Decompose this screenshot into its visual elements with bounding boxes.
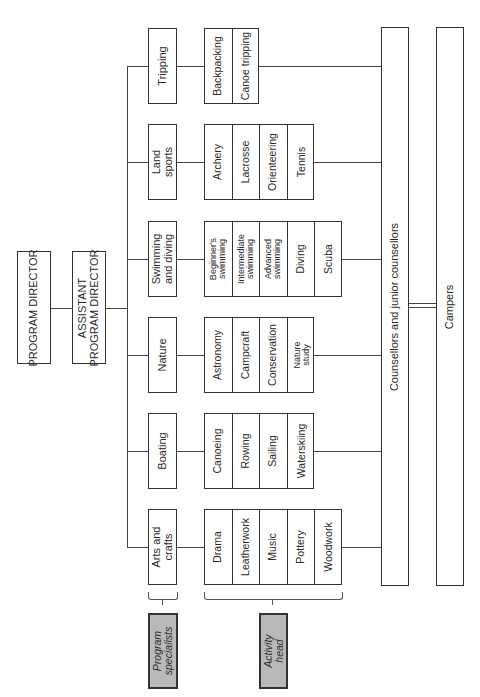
activity-label: Canoeing bbox=[213, 429, 224, 474]
activity-label: Lacrosse bbox=[240, 141, 251, 184]
program-label: Arts and crafts bbox=[151, 527, 174, 568]
activity-label: Drama bbox=[213, 531, 224, 563]
program-label: Nature bbox=[157, 338, 169, 371]
activity-cell: Rowing bbox=[233, 414, 261, 488]
program-label: Swimming and diving bbox=[151, 234, 174, 285]
activity-cell: Woodwork bbox=[315, 510, 343, 584]
activity-cell: Advanced swimming bbox=[260, 222, 288, 296]
campers-box: Campers bbox=[436, 27, 464, 586]
activities-to-counsellors bbox=[259, 66, 381, 67]
activity-label: Archery bbox=[213, 144, 224, 180]
program-to-activities bbox=[177, 259, 204, 260]
activity-cell: Beginner's swimming bbox=[205, 222, 233, 296]
activity-cell: Archery bbox=[205, 125, 233, 199]
activity-label: Orienteering bbox=[268, 133, 279, 191]
activity-cell: Intermediate swimming bbox=[233, 222, 261, 296]
activity-cell: Campcraft bbox=[233, 318, 261, 392]
assistant-connector bbox=[106, 308, 127, 309]
activities-to-counsellors bbox=[342, 547, 381, 548]
activity-label: Woodwork bbox=[324, 522, 335, 571]
program-director-label: PROGRAM DIRECTOR bbox=[28, 249, 40, 366]
activity-cell: Tennis bbox=[288, 125, 316, 199]
activity-label: Sailing bbox=[268, 435, 279, 467]
activities-boating: Canoeing Rowing Sailing Waterskiing bbox=[204, 413, 314, 489]
activity-cell: Canoe tripping bbox=[233, 29, 261, 103]
activity-label: Leatherwork bbox=[240, 518, 251, 576]
spine-to-nature bbox=[127, 355, 148, 356]
activity-label: Advanced swimming bbox=[264, 239, 283, 279]
spine-to-swimming-and-diving bbox=[127, 259, 148, 260]
activity-cell: Conservation bbox=[260, 318, 288, 392]
activity-label: Canoe tripping bbox=[241, 32, 252, 100]
spine-to-arts-and-crafts bbox=[127, 547, 148, 548]
program-tripping: Tripping bbox=[148, 28, 177, 104]
activity-head-legend: Activity head bbox=[259, 613, 288, 689]
activity-label: Campcraft bbox=[240, 331, 251, 379]
activity-cell: Orienteering bbox=[260, 125, 288, 199]
program-specialists-label: Program specialists bbox=[152, 627, 174, 675]
activities-to-counsellors bbox=[342, 259, 381, 260]
assistant-program-director-label: ASSISTANT PROGRAM DIRECTOR bbox=[77, 249, 100, 366]
program-nature: Nature bbox=[148, 317, 177, 393]
assistant-program-director-box: ASSISTANT PROGRAM DIRECTOR bbox=[72, 251, 106, 364]
activities-to-counsellors bbox=[314, 162, 381, 163]
activity-cell: Drama bbox=[205, 510, 233, 584]
program-specialists-brace-tip bbox=[162, 600, 163, 605]
program-spine bbox=[127, 66, 128, 548]
campers-label: Campers bbox=[444, 284, 456, 329]
activity-label: Conservation bbox=[268, 324, 279, 386]
spine-to-tripping bbox=[127, 66, 148, 67]
counsellors-campers-link-1 bbox=[409, 303, 436, 304]
activity-head-label: Activity head bbox=[262, 634, 284, 667]
program-to-activities bbox=[177, 66, 204, 67]
activity-head-brace bbox=[204, 592, 343, 600]
counsellors-box: Counsellors and junior counsellors bbox=[381, 27, 409, 586]
activity-cell: Waterskiing bbox=[288, 414, 316, 488]
spine-to-boating bbox=[127, 451, 148, 452]
activity-label: Music bbox=[268, 533, 279, 560]
activities-to-counsellors bbox=[314, 355, 381, 356]
activity-label: Tennis bbox=[296, 147, 307, 177]
activities-to-counsellors bbox=[314, 451, 381, 452]
activity-cell: Backpacking bbox=[205, 29, 233, 103]
program-label: Boating bbox=[157, 432, 169, 469]
counsellors-campers-link-2 bbox=[409, 307, 436, 308]
program-label: Tripping bbox=[157, 46, 169, 85]
program-to-activities bbox=[177, 451, 204, 452]
activity-label: Scuba bbox=[324, 244, 335, 274]
activity-cell: Leatherwork bbox=[233, 510, 261, 584]
activity-head-brace-tip bbox=[272, 600, 273, 605]
activity-cell: Diving bbox=[288, 222, 316, 296]
program-land-sports: Land sports bbox=[148, 124, 177, 200]
program-boating: Boating bbox=[148, 413, 177, 489]
activity-label: Beginner's swimming bbox=[209, 238, 228, 280]
activities-swimming-and-diving: Beginner's swimming Intermediate swimmin… bbox=[204, 221, 342, 297]
program-label: Land sports bbox=[151, 147, 174, 177]
program-to-activities bbox=[177, 162, 204, 163]
activity-cell: Astronomy bbox=[205, 318, 233, 392]
activities-arts-and-crafts: Drama Leatherwork Music Pottery Woodwork bbox=[204, 509, 342, 585]
program-to-activities bbox=[177, 355, 204, 356]
program-to-activities bbox=[177, 547, 204, 548]
program-director-box: PROGRAM DIRECTOR bbox=[17, 251, 51, 364]
activities-nature: Astronomy Campcraft Conservation Nature … bbox=[204, 317, 314, 393]
program-specialists-brace bbox=[148, 592, 178, 600]
activity-label: Waterskiing bbox=[296, 424, 307, 478]
activity-cell: Scuba bbox=[315, 222, 343, 296]
activities-tripping: Backpacking Canoe tripping bbox=[204, 28, 259, 104]
activity-cell: Nature study bbox=[288, 318, 316, 392]
activity-cell: Lacrosse bbox=[233, 125, 261, 199]
program-arts-and-crafts: Arts and crafts bbox=[148, 509, 177, 585]
activity-label: Diving bbox=[296, 244, 307, 273]
activity-label: Nature study bbox=[292, 341, 311, 368]
program-specialists-legend: Program specialists bbox=[148, 613, 178, 689]
activity-cell: Canoeing bbox=[205, 414, 233, 488]
activities-land-sports: Archery Lacrosse Orienteering Tennis bbox=[204, 124, 314, 200]
spine-to-land-sports bbox=[127, 162, 148, 163]
activity-cell: Sailing bbox=[260, 414, 288, 488]
activity-cell: Music bbox=[260, 510, 288, 584]
activity-label: Backpacking bbox=[213, 36, 224, 96]
activity-label: Intermediate swimming bbox=[236, 234, 255, 284]
activity-label: Astronomy bbox=[213, 330, 224, 380]
activity-label: Rowing bbox=[240, 433, 251, 468]
